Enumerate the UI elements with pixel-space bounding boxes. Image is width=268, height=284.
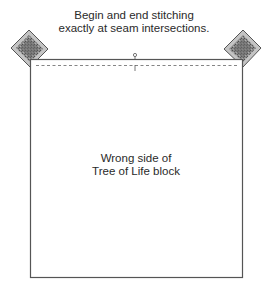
block-label-line-2: Tree of Life block <box>30 165 242 178</box>
quilt-diagram <box>0 0 268 284</box>
block-label-line-1: Wrong side of <box>30 152 242 165</box>
block-label: Wrong side of Tree of Life block <box>30 152 242 178</box>
